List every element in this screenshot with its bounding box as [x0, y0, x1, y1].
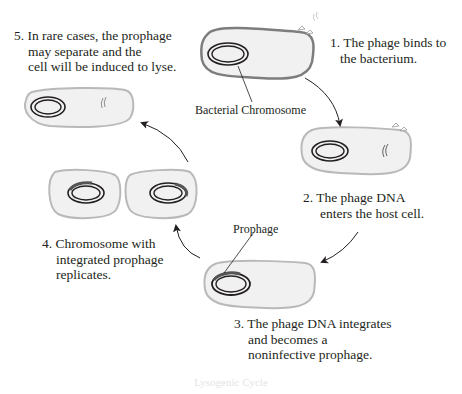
arrow-3-to-4	[176, 226, 200, 258]
prophage-label: Prophage	[233, 222, 278, 238]
cell-step-1	[201, 12, 318, 102]
step-1-label: 1. The phage binds to the bacterium.	[330, 35, 446, 66]
arrow-4-to-5	[142, 123, 188, 162]
diagram-title: Lysogenic Cycle	[0, 376, 462, 388]
bacterial-chromosome-label: Bacterial Chromosome	[195, 103, 306, 119]
phage-dna-icon	[313, 12, 318, 21]
arrow-1-to-2	[305, 78, 340, 125]
step-3-label: 3. The phage DNA integrates and becomes …	[234, 316, 392, 363]
lysogenic-cycle-diagram: 1. The phage binds to the bacterium. 2. …	[0, 0, 462, 394]
arrow-2-to-3	[322, 232, 358, 262]
cell-step-5	[25, 88, 133, 127]
cell-step-3	[204, 232, 315, 308]
step-4-label: 4. Chromosome with integrated prophage r…	[42, 236, 164, 283]
step-5-label: 5. In rare cases, the prophage may separ…	[14, 28, 176, 75]
cell-step-2	[301, 123, 411, 174]
step-2-label: 2. The phage DNA enters the host cell.	[303, 190, 424, 221]
cell-step-4	[49, 170, 196, 218]
